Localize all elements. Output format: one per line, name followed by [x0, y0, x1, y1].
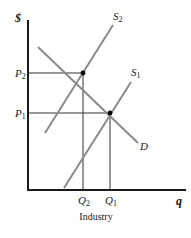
p1-label: P1	[14, 107, 26, 121]
supply-curve-s1	[64, 82, 131, 188]
y-axis-label: $	[14, 11, 21, 25]
supply-curve-s2	[45, 25, 113, 133]
x-axis-label: q	[176, 194, 182, 208]
equilibrium-point-1	[108, 111, 113, 116]
demand-label: D	[139, 140, 148, 152]
q2-label: Q2	[78, 194, 90, 208]
s2-label: S2	[113, 10, 123, 24]
caption: Industry	[79, 211, 112, 222]
p2-label: P2	[14, 67, 26, 81]
q1-label: Q1	[105, 194, 117, 208]
equilibrium-point-2	[81, 71, 86, 76]
industry-diagram: $ q P2 P1 Q2 Q1 S2 S1 D Industry	[0, 0, 191, 238]
s1-label: S1	[131, 66, 141, 80]
